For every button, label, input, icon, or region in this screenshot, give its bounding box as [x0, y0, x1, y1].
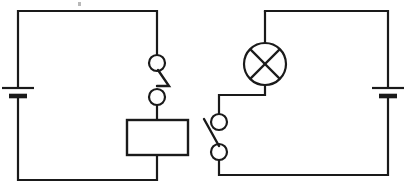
- right-circuit: [204, 11, 404, 175]
- left-switch-lever[interactable]: [157, 70, 169, 86]
- left-battery: [2, 88, 34, 96]
- left-circuit-wire-upper: [18, 11, 157, 88]
- left-circuit: [2, 11, 188, 180]
- circuit-diagram-svg: [0, 0, 405, 188]
- left-switch-lower-terminal[interactable]: [149, 89, 165, 105]
- right-switch-upper-terminal[interactable]: [211, 114, 227, 130]
- right-circuit-lamp-to-switch-wire: [219, 85, 265, 114]
- left-switch-upper-terminal[interactable]: [149, 55, 165, 71]
- left-switch[interactable]: [149, 55, 169, 105]
- circuit-diagram-canvas: [0, 0, 405, 188]
- right-circuit-wire-bottom: [219, 96, 388, 175]
- right-circuit-wire-top: [265, 11, 388, 88]
- right-switch[interactable]: [204, 114, 227, 160]
- lamp-icon: [244, 43, 286, 85]
- right-battery: [372, 88, 404, 96]
- left-resistor: [127, 120, 188, 155]
- paper-speck: [78, 2, 81, 6]
